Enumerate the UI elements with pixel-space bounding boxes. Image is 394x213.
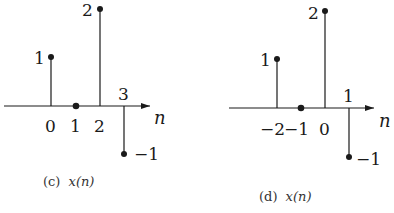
- caption-prefix: (d): [259, 189, 277, 204]
- stem-plot-d: 1 2 −1 −2 −1 0 1 n (d) x(n): [229, 3, 391, 204]
- stem-marker-n-2: [274, 56, 280, 62]
- caption-d: (d) x(n): [259, 189, 311, 204]
- stem-marker-n1: [346, 154, 352, 160]
- tick-label-1: 1: [70, 116, 81, 136]
- axis-label-n: n: [379, 110, 391, 131]
- tick-label-neg1: −1: [284, 119, 309, 139]
- tick-label-2: 2: [94, 116, 105, 136]
- stem-marker-n0: [48, 54, 54, 60]
- tick-label-1: 1: [343, 86, 354, 106]
- value-label-1: 1: [260, 50, 271, 70]
- tick-label-neg2: −2: [260, 119, 285, 139]
- caption-c: (c) x(n): [43, 174, 94, 189]
- value-label-neg1: −1: [356, 149, 381, 169]
- tick-label-0: 0: [45, 116, 56, 136]
- value-label-1: 1: [34, 48, 45, 68]
- stem-marker-n3: [121, 151, 127, 157]
- stem-marker-n-1: [298, 105, 305, 112]
- value-label-neg1: −1: [134, 144, 159, 164]
- axis-label-n: n: [154, 107, 166, 128]
- figure: 1 2 −1 0 1 2 3 n (c) x(n) 1 2 −1 −2 −1 0…: [0, 0, 394, 213]
- stem-marker-n1: [73, 103, 80, 110]
- value-label-2: 2: [308, 3, 319, 23]
- caption-prefix: (c): [43, 174, 60, 189]
- stem-marker-n0: [322, 8, 328, 14]
- stem-plot-c: 1 2 −1 0 1 2 3 n (c) x(n): [4, 0, 166, 189]
- stem-marker-n2: [97, 6, 103, 12]
- value-label-2: 2: [82, 0, 93, 20]
- tick-label-3: 3: [118, 84, 129, 104]
- caption-func: x(n): [286, 189, 312, 204]
- caption-func: x(n): [69, 174, 95, 189]
- tick-label-0: 0: [319, 119, 330, 139]
